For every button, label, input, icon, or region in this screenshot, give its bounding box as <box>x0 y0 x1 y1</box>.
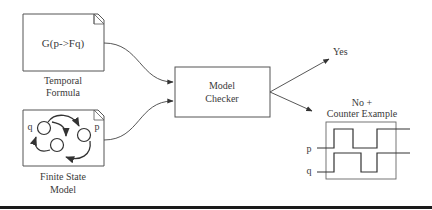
counter-example-box: p q <box>307 122 411 179</box>
state-label-q: q <box>28 121 33 132</box>
arrow-no <box>270 92 312 111</box>
formula-text: G(p->Fq) <box>42 37 85 50</box>
yes-label: Yes <box>333 46 348 57</box>
model-checker-box: Model Checker <box>175 67 270 117</box>
signal-label-q: q <box>307 165 312 176</box>
no-label-1: No + <box>352 97 373 108</box>
model-checker-line-1: Model <box>209 80 235 91</box>
fsm-caption-1: Finite State <box>40 171 86 182</box>
model-checker-line-2: Checker <box>205 93 239 104</box>
finite-state-model-box: q p <box>23 110 104 166</box>
state-label-p: p <box>95 121 100 132</box>
connector-formula-to-checker <box>104 43 173 82</box>
no-label-2: Counter Example <box>327 108 398 119</box>
signal-label-p: p <box>307 143 312 154</box>
connector-model-to-checker <box>104 101 173 140</box>
fsm-caption-2: Model <box>50 184 76 195</box>
temporal-formula-box: G(p->Fq) <box>23 14 104 71</box>
bottom-rule <box>0 206 432 209</box>
model-checking-diagram: G(p->Fq) Temporal Formula q p Finite Sta… <box>0 0 432 210</box>
arrow-yes <box>270 59 329 92</box>
temporal-formula-caption-1: Temporal <box>44 75 82 86</box>
temporal-formula-caption-2: Formula <box>46 87 80 98</box>
